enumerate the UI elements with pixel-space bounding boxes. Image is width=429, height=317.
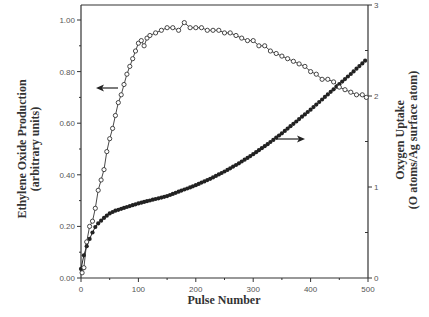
eo-marker (102, 168, 106, 172)
eo-marker (165, 26, 169, 30)
eo-marker (139, 39, 143, 43)
ethylene-oxide-series (80, 21, 368, 275)
eo-marker (199, 26, 203, 30)
eo-marker (128, 64, 132, 68)
left-y-axis: 0.000.200.400.600.801.00 (59, 16, 81, 283)
plot-frame (81, 5, 368, 278)
eo-marker (111, 126, 115, 130)
eo-marker (326, 77, 330, 81)
right-tick-label: 1 (374, 183, 379, 192)
right-tick-label: 3 (374, 1, 379, 10)
eo-marker (291, 59, 295, 63)
x-tick-label: 0 (79, 285, 84, 294)
eo-marker (234, 33, 238, 37)
eo-marker (116, 101, 120, 105)
eo-marker (268, 49, 272, 53)
eo-marker (228, 31, 232, 35)
dual-axis-chart: 0.000.200.400.600.801.00 0123 0100200300… (0, 0, 429, 317)
right-axis-title: Oxygen Uptake (O atoms/Ag surface atom) (393, 71, 420, 209)
eo-marker (133, 49, 137, 53)
right-tick-label: 0 (374, 274, 379, 283)
uptake-line (81, 60, 366, 269)
right-axis-title-line1: Oxygen Uptake (393, 99, 407, 179)
eo-marker (88, 224, 92, 228)
eo-marker (85, 240, 89, 244)
eo-marker (99, 178, 103, 182)
eo-marker (177, 28, 181, 32)
eo-marker (222, 31, 226, 35)
eo-marker (309, 70, 313, 74)
eo-marker (364, 95, 368, 99)
x-tick-label: 100 (132, 285, 146, 294)
eo-marker (93, 206, 97, 210)
eo-marker (105, 150, 109, 154)
x-axis-title: Pulse Number (188, 293, 262, 307)
eo-marker (82, 266, 86, 270)
left-axis-title: Ethylene Oxide Production (arbitrary uni… (15, 79, 42, 218)
uptake-marker (363, 59, 367, 63)
left-tick-label: 0.20 (59, 222, 75, 231)
eo-marker (320, 77, 324, 81)
eo-line (82, 23, 366, 273)
left-tick-label: 0.80 (59, 68, 75, 77)
left-tick-label: 0.00 (59, 274, 75, 283)
eo-marker (142, 44, 146, 48)
eo-marker (96, 188, 100, 192)
eo-marker (343, 88, 347, 92)
eo-marker (245, 39, 249, 43)
eo-marker (119, 93, 123, 97)
eo-marker (314, 72, 318, 76)
eo-marker (286, 57, 290, 61)
eo-marker (188, 26, 192, 30)
eo-marker (80, 271, 84, 275)
left-tick-label: 0.60 (59, 119, 75, 128)
eo-marker (240, 36, 244, 40)
left-tick-label: 1.00 (59, 16, 75, 25)
right-tick-label: 2 (374, 92, 379, 101)
eo-marker (205, 28, 209, 32)
eo-marker (360, 93, 364, 97)
eo-marker (154, 31, 158, 35)
eo-marker (332, 80, 336, 84)
x-axis: 0100200300400500 (79, 278, 375, 294)
eo-marker (108, 137, 112, 141)
eo-marker (171, 26, 175, 30)
eo-marker (337, 85, 341, 89)
eo-marker (125, 72, 129, 76)
left-axis-title-line1: Ethylene Oxide Production (15, 79, 29, 218)
eo-marker (251, 39, 255, 43)
left-axis-title-line2: (arbitrary units) (28, 107, 42, 191)
eo-marker (354, 93, 358, 97)
eo-marker (274, 51, 278, 55)
x-tick-label: 500 (361, 285, 375, 294)
eo-marker (113, 113, 117, 117)
eo-marker (303, 64, 307, 68)
eo-marker (159, 28, 163, 32)
eo-marker (297, 62, 301, 66)
eo-marker (349, 90, 353, 94)
eo-marker (194, 26, 198, 30)
axis-indicator-arrows (96, 85, 305, 143)
eo-marker (211, 28, 215, 32)
left-tick-label: 0.40 (59, 171, 75, 180)
eo-marker (257, 44, 261, 48)
uptake-marker (90, 230, 94, 234)
right-y-axis: 0123 (365, 1, 379, 283)
eo-marker (148, 33, 152, 37)
x-tick-label: 400 (304, 285, 318, 294)
eo-marker (182, 21, 186, 25)
eo-marker (217, 28, 221, 32)
eo-marker (280, 54, 284, 58)
eo-marker (131, 57, 135, 61)
right-axis-title-line2: (O atoms/Ag surface atom) (406, 71, 420, 209)
eo-marker (122, 82, 126, 86)
eo-marker (263, 44, 267, 48)
eo-marker (90, 219, 94, 223)
uptake-marker (93, 225, 97, 229)
